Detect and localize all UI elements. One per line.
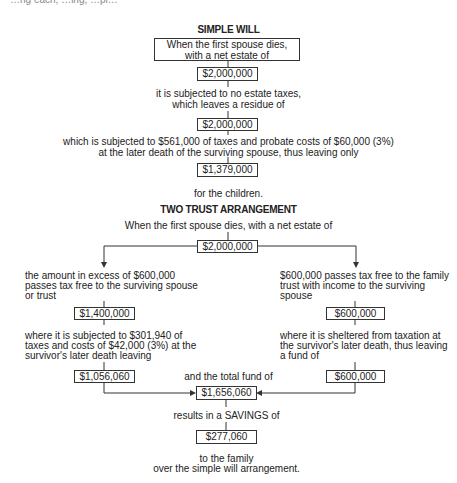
- simple-will-intro-box: When the first spouse dies, with a net e…: [154, 38, 300, 61]
- savings-label: results in a SAVINGS of: [0, 410, 453, 421]
- simple-will-children-box: $1,379,000: [197, 163, 258, 177]
- total-fund-label: and the total fund of: [0, 371, 457, 382]
- savings-box: $277,060: [196, 430, 257, 444]
- right-trust-box: $600,000: [326, 307, 385, 320]
- intro-line-2: with a net estate of: [155, 50, 299, 61]
- simple-will-text-2a: it is subjected to no estate taxes,: [0, 88, 457, 99]
- left-text-1c: or trust: [25, 290, 56, 301]
- two-trust-estate-box: $2,000,000: [197, 240, 258, 253]
- right-text-1c: spouse: [280, 290, 312, 301]
- two-trust-title: TWO TRUST ARRANGEMENT: [0, 204, 457, 215]
- intro-line-1: When the first spouse dies,: [155, 39, 299, 50]
- simple-will-residue-box: $2,000,000: [197, 118, 258, 131]
- simple-will-text-3a: which is subjected to $561,000 of taxes …: [0, 136, 457, 147]
- total-fund-box: $1,656,060: [196, 386, 257, 400]
- right-text-2c: a fund of: [280, 350, 319, 361]
- two-trust-intro: When the first spouse dies, with a net e…: [0, 220, 457, 231]
- simple-will-estate-box: $2,000,000: [197, 67, 258, 81]
- closing-line-2: over the simple will arrangement.: [0, 463, 453, 474]
- left-spouse-box: $1,400,000: [74, 307, 135, 320]
- simple-will-title: SIMPLE WILL: [0, 24, 457, 35]
- simple-will-text-2b: which leaves a residue of: [0, 99, 457, 110]
- simple-will-text-3b: at the later death of the surviving spou…: [0, 147, 457, 158]
- left-text-2c: survivor's later death leaving: [25, 350, 151, 361]
- simple-will-text-4: for the children.: [0, 188, 457, 199]
